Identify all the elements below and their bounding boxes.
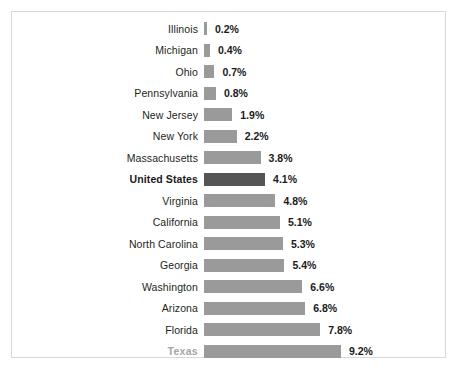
bar-value-label: 0.8% — [224, 88, 248, 99]
bar-row: Washington6.6% — [12, 276, 447, 298]
bar — [204, 259, 284, 272]
bar-value-label: 7.8% — [328, 325, 352, 336]
bar — [204, 280, 302, 293]
bar — [204, 87, 216, 100]
bar-value-label: 4.8% — [283, 196, 307, 207]
category-label: North Carolina — [12, 239, 198, 250]
bar-track: 3.8% — [204, 147, 293, 169]
category-label: California — [12, 217, 198, 228]
bar-track: 5.4% — [204, 255, 316, 277]
bar-track: 0.2% — [204, 18, 239, 40]
bar — [204, 44, 210, 57]
bar-value-label: 4.1% — [273, 174, 297, 185]
bar-track: 4.8% — [204, 190, 307, 212]
bar-value-label: 0.7% — [222, 67, 246, 78]
bar-row: Texas9.2% — [12, 341, 447, 363]
bar-value-label: 1.9% — [240, 110, 264, 121]
category-label: Pennsylvania — [12, 88, 198, 99]
bar — [204, 302, 305, 315]
bar-row: North Carolina5.3% — [12, 233, 447, 255]
bar-track: 6.6% — [204, 276, 334, 298]
category-label: United States — [12, 174, 198, 185]
bar-row: Massachusetts3.8% — [12, 147, 447, 169]
bar-value-label: 0.2% — [215, 24, 239, 35]
bar — [204, 345, 341, 358]
bar-track: 4.1% — [204, 169, 297, 191]
bar — [204, 194, 275, 207]
bar-track: 0.4% — [204, 40, 242, 62]
category-label: Michigan — [12, 45, 198, 56]
bar-row: Arizona6.8% — [12, 298, 447, 320]
bar-value-label: 9.2% — [349, 346, 373, 357]
category-label: Illinois — [12, 24, 198, 35]
bar-value-label: 6.6% — [310, 282, 334, 293]
bar-track: 1.9% — [204, 104, 264, 126]
bar-row: Pennsylvania0.8% — [12, 83, 447, 105]
bar-track: 0.7% — [204, 61, 246, 83]
bar — [204, 108, 232, 121]
bar — [204, 22, 207, 35]
category-label: Arizona — [12, 303, 198, 314]
bar-chart-plot-area: Illinois0.2%Michigan0.4%Ohio0.7%Pennsylv… — [12, 12, 447, 359]
bar-track: 6.8% — [204, 298, 337, 320]
bar — [204, 237, 283, 250]
bar — [204, 323, 320, 336]
bar-row: New Jersey1.9% — [12, 104, 447, 126]
category-label: New York — [12, 131, 198, 142]
bar-row: Florida7.8% — [12, 319, 447, 341]
bar-row: Ohio0.7% — [12, 61, 447, 83]
bar-row: California5.1% — [12, 212, 447, 234]
bar-track: 0.8% — [204, 83, 248, 105]
bar-value-label: 2.2% — [245, 131, 269, 142]
bar-track: 9.2% — [204, 341, 373, 363]
bar-value-label: 6.8% — [313, 303, 337, 314]
bar — [204, 130, 237, 143]
bar-track: 7.8% — [204, 319, 352, 341]
bar-value-label: 0.4% — [218, 45, 242, 56]
category-label: Ohio — [12, 67, 198, 78]
bar — [204, 65, 214, 78]
bar — [204, 173, 265, 186]
bar-track: 2.2% — [204, 126, 269, 148]
category-label: Virginia — [12, 196, 198, 207]
category-label: Washington — [12, 282, 198, 293]
bar-value-label: 5.3% — [291, 239, 315, 250]
bar-row: Virginia4.8% — [12, 190, 447, 212]
bar — [204, 216, 280, 229]
bar-row: United States4.1% — [12, 169, 447, 191]
bar-row: Illinois0.2% — [12, 18, 447, 40]
bar-row: New York2.2% — [12, 126, 447, 148]
bar-track: 5.1% — [204, 212, 312, 234]
category-label: New Jersey — [12, 110, 198, 121]
bar-row: Michigan0.4% — [12, 40, 447, 62]
category-label: Texas — [12, 346, 198, 357]
category-label: Massachusetts — [12, 153, 198, 164]
bar-value-label: 3.8% — [269, 153, 293, 164]
bar — [204, 151, 261, 164]
category-label: Florida — [12, 325, 198, 336]
category-label: Georgia — [12, 260, 198, 271]
chart-frame: Illinois0.2%Michigan0.4%Ohio0.7%Pennsylv… — [11, 11, 446, 358]
bar-track: 5.3% — [204, 233, 315, 255]
bar-value-label: 5.1% — [288, 217, 312, 228]
bar-row: Georgia5.4% — [12, 255, 447, 277]
bar-value-label: 5.4% — [292, 260, 316, 271]
